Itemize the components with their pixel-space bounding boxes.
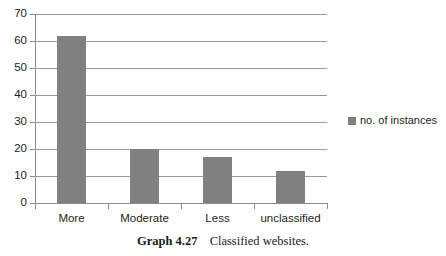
y-axis-tick-label: 60 xyxy=(3,35,27,47)
x-axis-tick xyxy=(108,204,109,209)
x-axis-label-less: Less xyxy=(181,212,254,225)
bar-less[interactable] xyxy=(203,157,232,203)
y-axis-tick xyxy=(30,41,35,42)
y-axis-tick xyxy=(30,149,35,150)
x-axis-label-unclassified: unclassified xyxy=(254,212,327,225)
y-axis-tick-label: 70 xyxy=(3,8,27,20)
y-axis-tick-labels: 010203040506070 xyxy=(0,0,27,256)
y-axis-tick-label: 20 xyxy=(3,143,27,155)
x-axis-tick xyxy=(254,204,255,209)
y-axis-tick xyxy=(30,14,35,15)
y-axis-tick xyxy=(30,68,35,69)
y-axis-tick xyxy=(30,122,35,123)
y-axis-tick-label: 50 xyxy=(3,62,27,74)
legend-swatch-icon xyxy=(348,117,356,125)
x-axis-tick xyxy=(327,204,328,209)
bar-more[interactable] xyxy=(57,36,86,203)
y-axis-tick-label: 40 xyxy=(3,89,27,101)
y-axis-tick-label: 0 xyxy=(3,197,27,209)
chart-legend: no. of instances xyxy=(348,115,437,126)
plot-area xyxy=(35,14,327,203)
x-axis-label-more: More xyxy=(35,212,108,225)
caption-text: Classified websites. xyxy=(210,234,309,248)
y-axis-tick xyxy=(30,95,35,96)
legend-label: no. of instances xyxy=(360,115,437,126)
gridline xyxy=(35,14,327,15)
x-axis-label-moderate: Moderate xyxy=(108,212,181,225)
figure-classified-websites: 010203040506070 no. of instances Graph 4… xyxy=(0,0,446,256)
bar-unclassified[interactable] xyxy=(276,171,305,203)
x-axis-tick xyxy=(181,204,182,209)
figure-caption: Graph 4.27 Classified websites. xyxy=(0,234,446,249)
y-axis-tick xyxy=(30,176,35,177)
y-axis-tick-label: 30 xyxy=(3,116,27,128)
caption-number: Graph 4.27 xyxy=(137,234,197,248)
y-axis-tick-label: 10 xyxy=(3,170,27,182)
x-axis-tick xyxy=(35,204,36,209)
bar-moderate[interactable] xyxy=(130,149,159,203)
